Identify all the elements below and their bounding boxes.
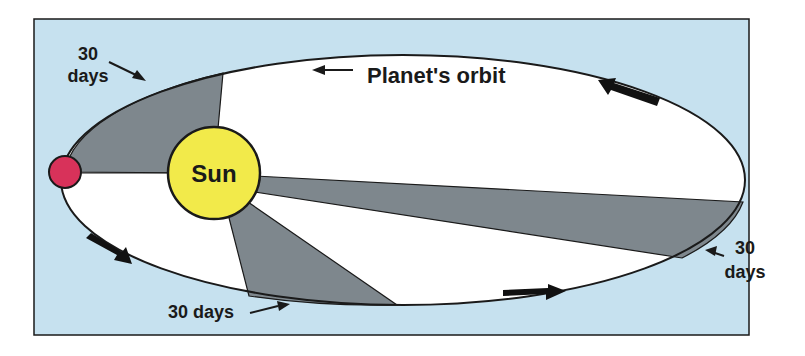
orbit-label: Planet's orbit — [367, 63, 506, 88]
label-30-right: 30 — [735, 238, 755, 258]
kepler-orbit-diagram: Sun Planet's orbit 30 days 30 days 30 da… — [0, 0, 805, 356]
planet — [49, 156, 81, 188]
label-days-right: days — [724, 262, 765, 282]
label-30-top-left: 30 — [78, 44, 98, 64]
label-30-days-bottom: 30 days — [168, 302, 234, 322]
label-days-top-left: days — [67, 66, 108, 86]
sun-label: Sun — [191, 160, 236, 187]
